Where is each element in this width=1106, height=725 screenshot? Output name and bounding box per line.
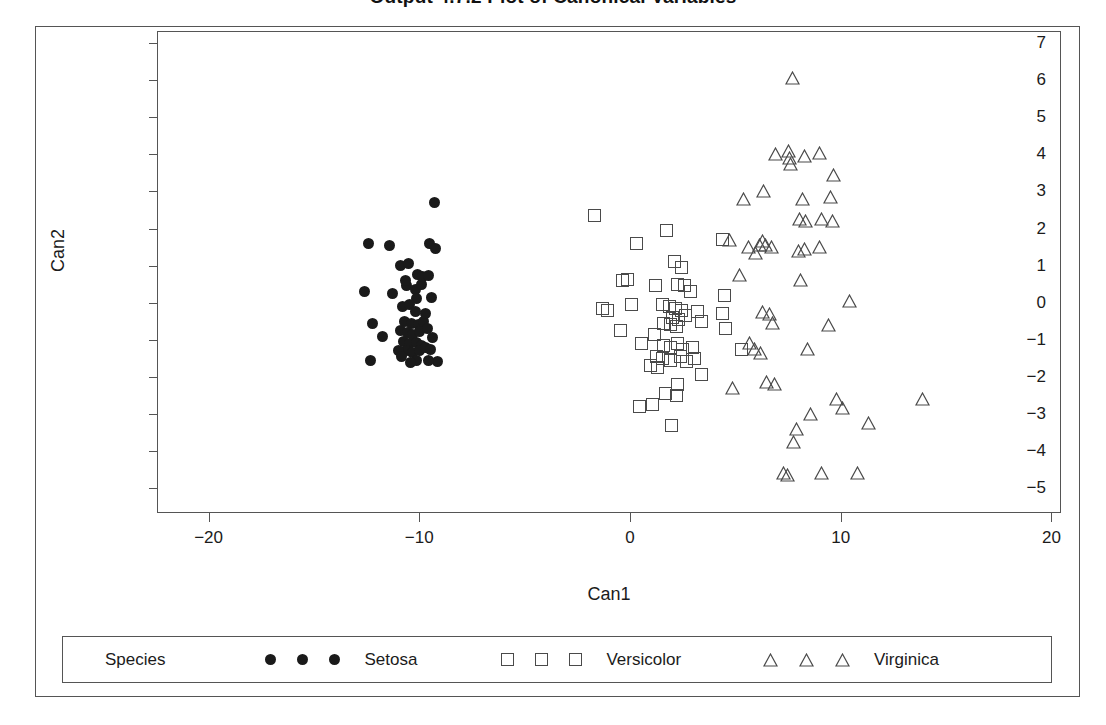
data-point-versicolor bbox=[695, 315, 708, 328]
data-point-versicolor bbox=[616, 274, 629, 287]
data-point-virginica bbox=[725, 381, 740, 395]
x-tick-mark bbox=[419, 512, 420, 522]
data-point-virginica bbox=[753, 346, 768, 360]
data-point-setosa bbox=[416, 279, 427, 290]
data-point-virginica bbox=[800, 342, 815, 356]
data-points-layer bbox=[158, 32, 1060, 512]
data-point-virginica bbox=[823, 190, 838, 204]
data-point-virginica bbox=[792, 212, 807, 226]
data-point-versicolor bbox=[656, 298, 669, 311]
data-point-virginica bbox=[842, 294, 857, 308]
y-tick-mark bbox=[149, 488, 158, 489]
data-point-setosa bbox=[404, 338, 415, 349]
x-tick-mark bbox=[1051, 512, 1052, 522]
data-point-versicolor bbox=[650, 350, 663, 363]
data-point-virginica bbox=[814, 212, 829, 226]
data-point-setosa bbox=[367, 318, 378, 329]
data-point-versicolor bbox=[665, 419, 678, 432]
data-point-setosa bbox=[401, 280, 412, 291]
data-point-versicolor bbox=[596, 302, 609, 315]
data-point-versicolor bbox=[684, 285, 697, 298]
data-point-versicolor bbox=[674, 350, 687, 363]
data-point-versicolor bbox=[719, 322, 732, 335]
data-point-setosa bbox=[395, 325, 406, 336]
data-point-virginica bbox=[765, 316, 780, 330]
data-point-versicolor bbox=[601, 304, 614, 317]
data-point-virginica bbox=[783, 157, 798, 171]
data-point-setosa bbox=[411, 337, 422, 348]
legend-swatch-filled-circle bbox=[265, 654, 340, 665]
x-tick-mark bbox=[841, 512, 842, 522]
data-point-setosa bbox=[406, 318, 417, 329]
data-point-setosa bbox=[395, 260, 406, 271]
data-point-virginica bbox=[850, 466, 865, 480]
data-point-virginica bbox=[825, 214, 840, 228]
data-point-setosa bbox=[418, 316, 429, 327]
data-point-setosa bbox=[407, 329, 418, 340]
x-tick-label: −10 bbox=[405, 528, 434, 548]
data-point-virginica bbox=[776, 466, 791, 480]
data-point-virginica bbox=[789, 422, 804, 436]
data-point-setosa bbox=[422, 323, 433, 334]
legend-entry-setosa: Setosa bbox=[265, 650, 417, 670]
data-point-versicolor bbox=[648, 328, 661, 341]
data-point-versicolor bbox=[646, 398, 659, 411]
data-point-virginica bbox=[795, 192, 810, 206]
data-point-virginica bbox=[786, 435, 801, 449]
data-point-virginica bbox=[793, 273, 808, 287]
data-point-virginica bbox=[768, 147, 783, 161]
data-point-setosa bbox=[420, 342, 431, 353]
data-point-virginica bbox=[798, 214, 813, 228]
data-point-versicolor bbox=[663, 300, 676, 313]
data-point-virginica bbox=[747, 342, 762, 356]
data-point-versicolor bbox=[614, 324, 627, 337]
data-point-setosa bbox=[423, 355, 434, 366]
data-point-setosa bbox=[398, 336, 409, 347]
data-point-versicolor bbox=[718, 289, 731, 302]
data-point-virginica bbox=[732, 268, 747, 282]
data-point-setosa bbox=[412, 269, 423, 280]
data-point-setosa bbox=[410, 284, 421, 295]
data-point-virginica bbox=[829, 392, 844, 406]
data-point-versicolor bbox=[671, 378, 684, 391]
data-point-virginica bbox=[748, 246, 763, 260]
data-point-virginica bbox=[756, 184, 771, 198]
y-tick-mark bbox=[149, 340, 158, 341]
x-tick-label: 10 bbox=[831, 528, 850, 548]
data-point-versicolor bbox=[675, 261, 688, 274]
data-point-virginica bbox=[797, 149, 812, 163]
data-point-setosa bbox=[417, 271, 428, 282]
data-point-versicolor bbox=[670, 389, 683, 402]
data-point-setosa bbox=[411, 293, 422, 304]
y-tick-mark bbox=[149, 414, 158, 415]
data-point-virginica bbox=[722, 233, 737, 247]
data-point-virginica bbox=[812, 240, 827, 254]
data-point-virginica bbox=[762, 307, 777, 321]
data-point-versicolor bbox=[686, 341, 699, 354]
data-point-virginica bbox=[759, 375, 774, 389]
data-point-versicolor bbox=[656, 352, 669, 365]
data-point-setosa bbox=[424, 238, 435, 249]
data-point-versicolor bbox=[688, 352, 701, 365]
data-point-virginica bbox=[915, 392, 930, 406]
data-point-virginica bbox=[758, 238, 773, 252]
data-point-versicolor bbox=[676, 343, 689, 356]
data-point-setosa bbox=[400, 275, 411, 286]
data-point-virginica bbox=[812, 146, 827, 160]
data-point-setosa bbox=[377, 331, 388, 342]
data-point-virginica bbox=[781, 144, 796, 158]
data-point-versicolor bbox=[588, 209, 601, 222]
data-point-virginica bbox=[797, 242, 812, 256]
data-point-setosa bbox=[420, 308, 431, 319]
data-point-virginica bbox=[780, 468, 795, 482]
data-point-virginica bbox=[764, 240, 779, 254]
legend-label-setosa: Setosa bbox=[364, 650, 417, 670]
data-point-virginica bbox=[826, 168, 841, 182]
data-point-setosa bbox=[396, 351, 407, 362]
y-tick-mark bbox=[149, 229, 158, 230]
y-axis-title: Can2 bbox=[48, 229, 69, 272]
data-point-versicolor bbox=[669, 302, 682, 315]
x-tick-mark bbox=[209, 512, 210, 522]
legend-title: Species bbox=[105, 650, 165, 670]
data-point-versicolor bbox=[691, 305, 704, 318]
